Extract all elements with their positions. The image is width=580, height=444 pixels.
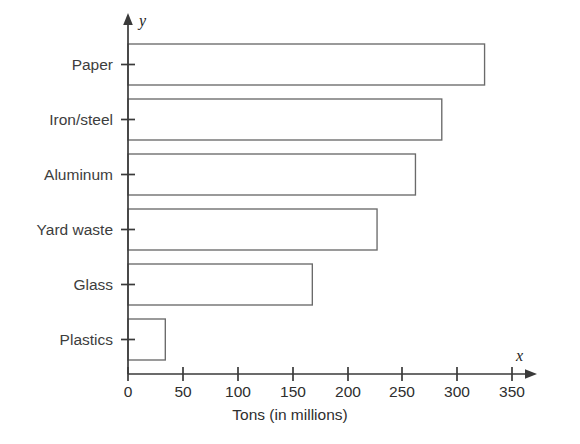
y-axis-tick-labels: Paper Iron/steel Aluminum Yard waste Gla… (37, 56, 114, 348)
x-tick-label-300: 300 (444, 383, 470, 400)
y-tick-label-aluminum: Aluminum (44, 166, 113, 183)
x-tick-label-50: 50 (174, 383, 192, 400)
bar-aluminum (128, 154, 415, 195)
y-axis-arrow-icon (123, 13, 133, 25)
chart-canvas: y x Paper Iron/steel Aluminum Yard waste… (0, 0, 580, 444)
y-tick-label-yard-waste: Yard waste (37, 221, 113, 238)
bar-glass (128, 264, 312, 305)
y-tick-label-paper: Paper (72, 56, 113, 73)
y-tick-label-plastics: Plastics (60, 331, 114, 348)
y-tick-label-glass: Glass (73, 276, 113, 293)
x-tick-label-0: 0 (124, 383, 133, 400)
x-axis-tick-labels: 0 50 100 150 200 250 300 350 (124, 383, 526, 400)
bars-group (128, 44, 485, 360)
x-axis: x (128, 347, 537, 379)
y-tick-label-iron-steel: Iron/steel (49, 111, 113, 128)
bar-iron-steel (128, 99, 442, 140)
x-tick-label-200: 200 (335, 383, 361, 400)
x-tick-label-100: 100 (225, 383, 251, 400)
bar-paper (128, 44, 485, 85)
x-tick-label-250: 250 (389, 383, 415, 400)
bar-yard-waste (128, 209, 377, 250)
x-axis-name-label: x (515, 347, 523, 364)
y-axis-name-label: y (137, 12, 147, 30)
x-tick-label-150: 150 (280, 383, 306, 400)
x-axis-arrow-icon (525, 369, 537, 379)
x-axis-title: Tons (in millions) (232, 406, 347, 423)
x-tick-label-350: 350 (499, 383, 525, 400)
bar-chart-figure: y x Paper Iron/steel Aluminum Yard waste… (0, 0, 580, 444)
